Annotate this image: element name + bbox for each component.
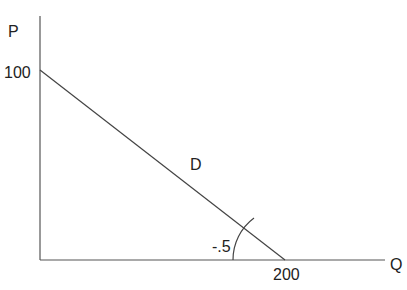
slope-label: -.5 [212,238,231,255]
demand-diagram: P 100 D -.5 Q 200 [0,0,407,290]
price-axis-label: P [8,23,19,40]
slope-angle-arc [233,218,254,260]
demand-curve-label: D [190,156,202,173]
demand-curve [40,70,285,260]
quantity-axis-label: Q [390,256,402,273]
x-intercept-label: 200 [273,266,300,283]
y-intercept-label: 100 [4,64,31,81]
